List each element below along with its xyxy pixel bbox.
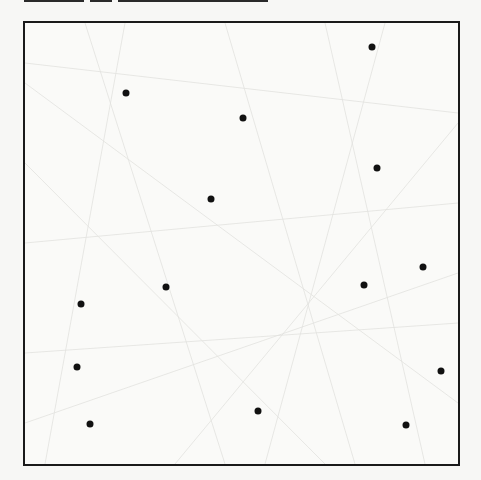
- data-point: [87, 421, 94, 428]
- background-texture: [25, 23, 458, 464]
- data-point: [361, 282, 368, 289]
- data-point: [163, 284, 170, 291]
- data-point: [208, 196, 215, 203]
- clipped-figure-caption: [24, 0, 344, 2]
- data-point: [420, 264, 427, 271]
- data-point: [255, 408, 262, 415]
- data-point: [74, 364, 81, 371]
- data-point: [123, 90, 130, 97]
- plot-frame: [23, 21, 460, 466]
- data-point: [438, 368, 445, 375]
- data-point: [374, 165, 381, 172]
- data-point: [369, 44, 376, 51]
- data-point: [240, 115, 247, 122]
- data-point: [78, 301, 85, 308]
- data-point: [403, 422, 410, 429]
